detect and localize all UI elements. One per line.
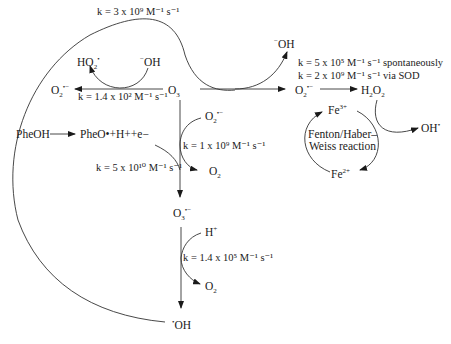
- fenton-cycle-label: Fenton/Haber–Weiss reaction: [308, 128, 377, 152]
- species-ho2: HO2•: [77, 56, 100, 68]
- species-fe2: Fe2+: [331, 168, 350, 180]
- reaction-arrows: [0, 0, 451, 344]
- ozone-reaction-diagram: k = 3 x 10⁹ M⁻¹ s⁻¹ k = 1.4 x 10² M⁻¹ s⁻…: [0, 0, 451, 344]
- arrow-oh-to-ho2: [90, 66, 148, 88]
- species-fe3: Fe3+: [328, 104, 347, 116]
- species-oh-minus-left: −OH: [140, 56, 161, 68]
- rate-spontaneous: k = 5 x 10⁵ M⁻¹ s⁻¹ spontaneously: [298, 57, 443, 69]
- species-oh-minus-top: −OH: [274, 38, 295, 50]
- species-oh-radical-bottom: •OH: [172, 319, 191, 331]
- rate-o3-to-o2-left: k = 1.4 x 10² M⁻¹ s⁻¹: [78, 91, 168, 103]
- arrow-to-oh-top: [235, 52, 287, 89]
- rate-superoxide-attack: k = 1 x 10⁹ M⁻¹ s⁻¹: [183, 140, 265, 152]
- species-superoxide-right: O2•−: [295, 84, 313, 96]
- rate-pheo-attack: k = 5 x 10¹⁰ M⁻¹ s⁻¹: [96, 162, 182, 174]
- species-o2-bottom: O2: [205, 280, 217, 292]
- species-superoxide-mid: O2•−: [205, 110, 223, 122]
- rate-top-curve: k = 3 x 10⁹ M⁻¹ s⁻¹: [97, 6, 179, 18]
- species-o3-radical: O3•−: [173, 207, 191, 219]
- species-superoxide-left: O2•−: [51, 84, 69, 96]
- species-o3: O3: [168, 84, 180, 96]
- rate-hplus-attack: k = 1.4 x 10⁵ M⁻¹ s⁻¹: [183, 252, 273, 264]
- species-h2o2: H2O2: [361, 84, 385, 96]
- rate-via-sod: k = 2 x 10⁹ M⁻¹ s⁻¹ via SOD: [298, 70, 419, 82]
- species-pheo-products: PheO•+H++e−: [80, 128, 149, 140]
- species-o2-mid: O2: [209, 165, 221, 177]
- arrow-h2o2-to-ohradical: [375, 100, 418, 132]
- species-oh-radical-right: OH•: [421, 122, 440, 134]
- species-h-plus: H+: [205, 226, 217, 238]
- species-pheoh: PheOH: [16, 128, 50, 140]
